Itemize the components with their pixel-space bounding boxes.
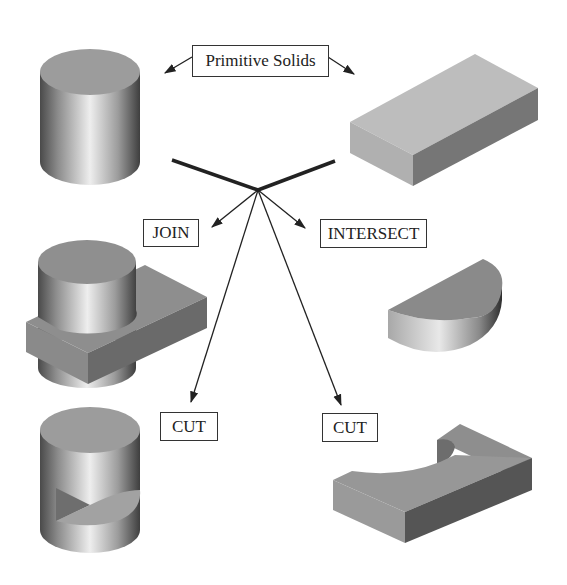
label-cut-left: CUT bbox=[160, 412, 218, 441]
arrow-to-join bbox=[212, 190, 258, 227]
label-join: JOIN bbox=[143, 219, 199, 247]
label-primitive-solids: Primitive Solids bbox=[192, 45, 329, 77]
join-result bbox=[26, 240, 207, 388]
diagram-canvas bbox=[0, 0, 567, 585]
arrow-to-box bbox=[328, 57, 354, 74]
intersect-result bbox=[388, 259, 502, 352]
primitive-box bbox=[350, 54, 538, 186]
primitive-cylinder bbox=[40, 49, 140, 185]
label-intersect: INTERSECT bbox=[320, 219, 427, 248]
cut-cylinder-result bbox=[40, 407, 140, 553]
label-cut-right: CUT bbox=[322, 413, 378, 442]
arrow-to-cylinder bbox=[165, 57, 192, 73]
